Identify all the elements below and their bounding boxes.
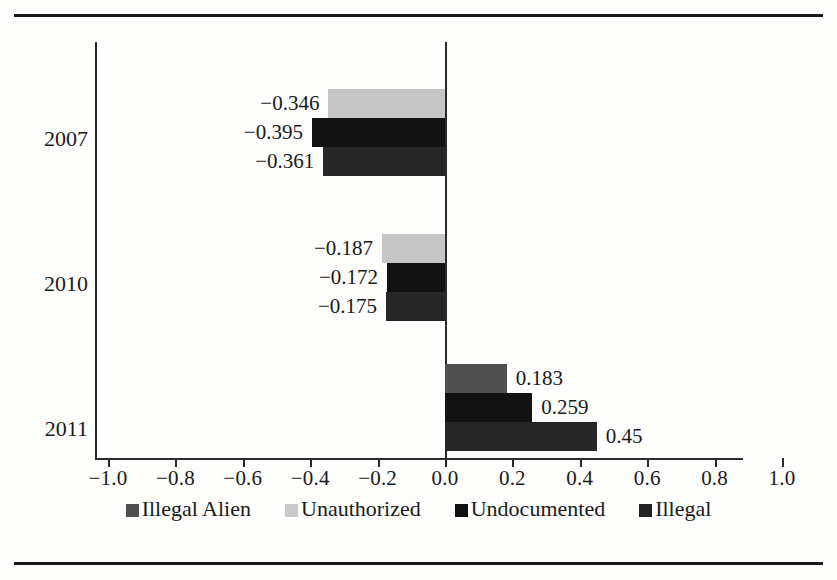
bar-value-label: 0.45: [606, 422, 643, 451]
x-tick-label: −0.4: [291, 466, 330, 490]
bar-value-label: −0.361: [255, 147, 314, 176]
legend-swatch-icon: [126, 504, 139, 517]
x-tick-label: 0.4: [566, 466, 593, 490]
bar-value-label: 0.183: [516, 364, 563, 393]
y-axis-line: [95, 42, 97, 458]
bar-value-label: −0.175: [318, 292, 377, 321]
bar-value-label: −0.172: [319, 263, 378, 292]
figure-container: 200720102011 −1.0−0.8−0.6−0.4−0.20.00.20…: [0, 0, 837, 580]
x-tick-label: −0.8: [156, 466, 195, 490]
bar: [445, 422, 597, 451]
legend-item-unauthorized[interactable]: Unauthorized: [285, 496, 421, 522]
legend-item-undocumented[interactable]: Undocumented: [455, 496, 605, 522]
bar-chart-plot: 200720102011 −1.0−0.8−0.6−0.4−0.20.00.20…: [0, 0, 837, 470]
x-tick-label: 0.6: [634, 466, 661, 490]
x-tick-label: −0.6: [223, 466, 262, 490]
bar: [445, 364, 507, 393]
x-tick-label: 1.0: [769, 466, 796, 490]
legend-item-label: Undocumented: [471, 496, 605, 522]
y-axis-year-label: 2011: [45, 417, 88, 441]
legend-swatch-icon: [285, 504, 298, 517]
y-axis-year-label: 2010: [44, 272, 88, 296]
legend-item-illegal[interactable]: Illegal: [639, 496, 711, 522]
x-tick-label: −0.2: [358, 466, 397, 490]
bar: [445, 393, 532, 422]
legend-swatch-icon: [455, 504, 468, 517]
chart-legend: Illegal AlienUnauthorizedUndocumentedIll…: [0, 496, 837, 522]
bar-value-label: −0.395: [244, 118, 303, 147]
legend-swatch-icon: [639, 504, 652, 517]
legend-item-illegal-alien[interactable]: Illegal Alien: [126, 496, 251, 522]
y-axis-year-label: 2007: [44, 127, 88, 151]
x-tick-label: 0.8: [701, 466, 728, 490]
legend-item-label: Unauthorized: [301, 496, 421, 522]
bar: [386, 292, 445, 321]
x-tick-label: 0.2: [499, 466, 526, 490]
x-tick-label: 0.0: [432, 466, 459, 490]
bar: [387, 263, 445, 292]
legend-item-label: Illegal Alien: [142, 496, 251, 522]
bar-value-label: 0.259: [541, 393, 588, 422]
bottom-rule: [14, 562, 823, 565]
bar: [382, 234, 445, 263]
bar: [328, 89, 445, 118]
bar: [312, 118, 445, 147]
bar-value-label: −0.187: [314, 234, 373, 263]
legend-item-label: Illegal: [655, 496, 711, 522]
x-axis-line: [95, 458, 743, 460]
bar-value-label: −0.346: [260, 89, 319, 118]
x-tick-label: −1.0: [89, 466, 128, 490]
bar: [323, 147, 445, 176]
